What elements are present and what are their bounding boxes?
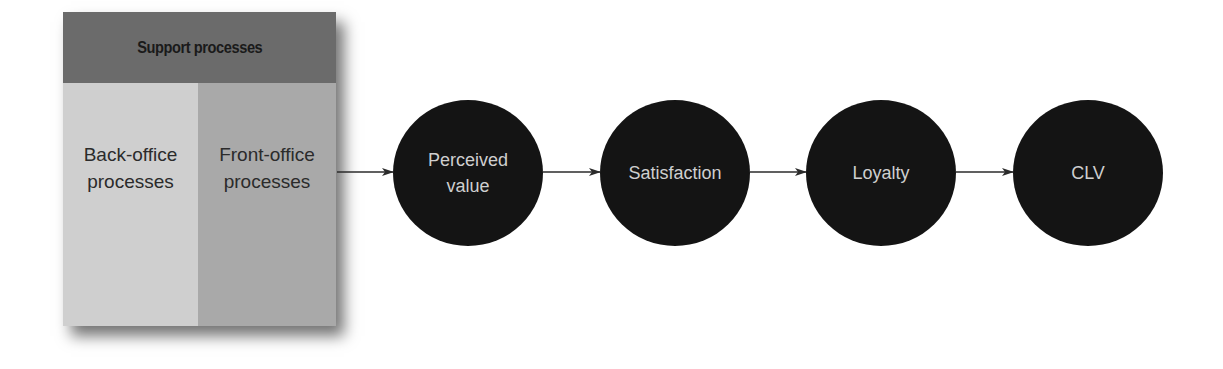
node-satisfaction-label: Satisfaction — [628, 160, 721, 186]
node-perceived-value-line1: Perceived — [428, 147, 508, 173]
node-clv-label: CLV — [1071, 160, 1105, 186]
node-clv: CLV — [1013, 100, 1163, 246]
node-perceived-value: Perceived value — [393, 100, 543, 246]
node-satisfaction: Satisfaction — [600, 100, 750, 246]
node-loyalty-label: Loyalty — [852, 160, 909, 186]
node-perceived-value-line2: value — [446, 173, 489, 199]
node-loyalty: Loyalty — [806, 100, 956, 246]
